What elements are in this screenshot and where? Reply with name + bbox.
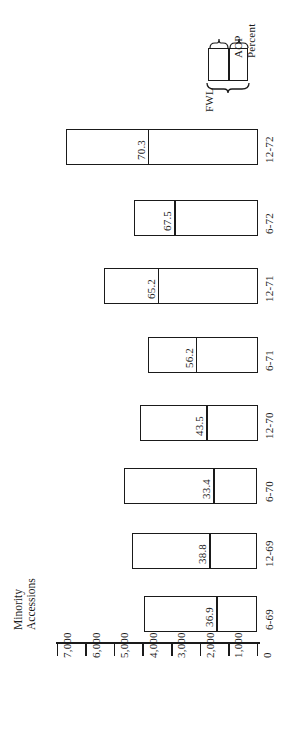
axis-tick xyxy=(85,643,87,656)
bar-percent-label-12-72: 70.3 xyxy=(136,140,147,160)
axis-tick xyxy=(257,643,259,656)
bar-split-6-70 xyxy=(213,469,215,503)
bar-split-6-69 xyxy=(216,597,218,631)
axis-title-line-1: Minority xyxy=(12,460,25,630)
axis-tick-label: 1,000 xyxy=(233,588,244,658)
bar-split-12-72 xyxy=(148,130,150,164)
bar-split-6-71 xyxy=(196,338,198,372)
category-label-12-69: 12-69 xyxy=(264,540,275,567)
axis-tick xyxy=(228,643,230,656)
category-label-12-71: 12-71 xyxy=(264,275,275,302)
bar-percent-label-12-69: 38.8 xyxy=(197,544,208,564)
axis-tick xyxy=(142,643,144,656)
bar-split-12-69 xyxy=(209,534,211,568)
bar-percent-label-12-71: 65.2 xyxy=(146,279,157,299)
axis-title-line-2: Accessions xyxy=(25,460,38,630)
legend-label-aop: AOP xyxy=(232,35,244,58)
category-label-12-70: 12-70 xyxy=(264,412,275,439)
bar-6-72 xyxy=(134,200,258,236)
bar-12-69 xyxy=(132,533,257,569)
axis-tick xyxy=(200,643,202,656)
legend-label-fwl: FWL xyxy=(203,88,215,112)
axis-title-minority-accessions: Minority Accessions xyxy=(12,460,38,630)
bar-split-12-71 xyxy=(158,269,160,303)
axis-tick-label: 2,000 xyxy=(205,588,216,658)
bar-percent-label-6-72: 67.5 xyxy=(162,211,173,231)
bar-split-12-70 xyxy=(206,406,208,440)
axis-tick xyxy=(57,643,59,656)
legend-brace-aop xyxy=(209,38,229,49)
bar-percent-label-6-71: 56.2 xyxy=(184,348,195,368)
axis-tick-label: 4,000 xyxy=(148,588,159,658)
axis-tick-label: 0 xyxy=(262,588,273,658)
chart-legend: FWL AOP Percent xyxy=(0,0,291,120)
axis-tick-label: 6,000 xyxy=(91,588,102,658)
legend-swatch-split xyxy=(228,49,230,80)
axis-tick-label: 3,000 xyxy=(176,588,187,658)
category-label-6-70: 6-70 xyxy=(264,481,275,502)
minority-accessions-chart: FWL AOP Percent 70.312-7267.56-7265.212-… xyxy=(0,0,291,730)
axis-tick-label: 7,000 xyxy=(62,588,73,658)
category-label-6-71: 6-71 xyxy=(264,350,275,371)
legend-label-percent: Percent xyxy=(245,24,257,58)
bar-6-71 xyxy=(148,337,258,373)
axis-tick-label: 5,000 xyxy=(119,588,130,658)
axis-tick xyxy=(114,643,116,656)
bar-percent-label-6-70: 33.4 xyxy=(201,479,212,499)
axis-tick xyxy=(171,643,173,656)
category-label-6-72: 6-72 xyxy=(264,213,275,234)
bar-12-72 xyxy=(66,129,258,165)
bar-percent-label-12-70: 43.5 xyxy=(194,416,205,436)
bar-12-71 xyxy=(104,268,258,304)
category-label-12-72: 12-72 xyxy=(264,136,275,163)
bar-6-70 xyxy=(124,468,257,504)
bar-split-6-72 xyxy=(174,201,176,235)
